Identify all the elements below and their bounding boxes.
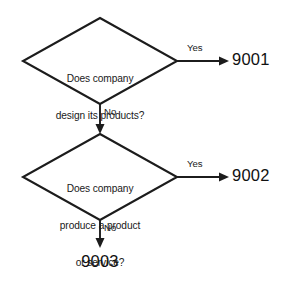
- terminal-9001[interactable]: 9001: [232, 51, 270, 68]
- decision-node-1-label: Does company design its products?: [23, 48, 177, 147]
- edge-label-yes-2: Yes: [187, 159, 203, 169]
- decision-node-1-label-line-2: design its products?: [23, 110, 177, 122]
- flowchart-text-layer: Does company design its products? Yes 90…: [0, 0, 281, 285]
- decision-node-2-label-line-2: produce a product: [23, 220, 177, 232]
- decision-node-1-label-line-1: Does company: [23, 73, 177, 85]
- edge-label-no-2: No: [104, 223, 116, 233]
- decision-node-2-label-line-1: Does company: [23, 183, 177, 195]
- flowchart-diagram: Does company design its products? Yes 90…: [0, 0, 281, 285]
- edge-label-no-1: No: [104, 107, 116, 117]
- edge-label-yes-1: Yes: [187, 43, 203, 53]
- terminal-9003[interactable]: 9003: [75, 253, 125, 270]
- terminal-9002[interactable]: 9002: [232, 167, 270, 184]
